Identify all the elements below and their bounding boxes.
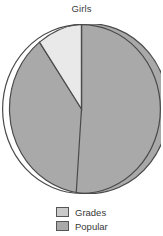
legend-item-popular[interactable]: Popular [56, 220, 108, 232]
legend-item-grades[interactable]: Grades [56, 206, 106, 218]
pie-svg [2, 24, 161, 194]
legend-label-popular: Popular [75, 221, 108, 232]
legend-swatch-popular [56, 221, 69, 231]
legend-swatch-grades [56, 207, 69, 217]
chart-title: Girls [0, 3, 163, 15]
chart-legend: Grades Popular [0, 205, 163, 236]
pie-plot-area [2, 24, 161, 194]
legend-label-grades: Grades [75, 207, 106, 218]
pie-chart-figure: Girls Grades Popular [0, 0, 163, 236]
